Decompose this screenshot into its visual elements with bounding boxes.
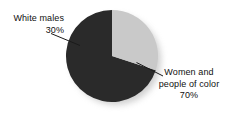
pie-label-white-males: White males 30% — [2, 13, 64, 36]
pie-label-white-males-value: 30% — [2, 25, 64, 37]
pie-label-women-poc-value: 70% — [152, 90, 226, 102]
pie-chart-figure: White males 30% Women and people of colo… — [0, 0, 228, 119]
pie-label-women-poc-name-line1: Women and — [152, 67, 226, 79]
pie-label-women-poc: Women and people of color 70% — [152, 67, 226, 102]
pie-label-women-poc-name-line2: people of color — [152, 79, 226, 91]
pie-label-white-males-name: White males — [2, 13, 64, 25]
